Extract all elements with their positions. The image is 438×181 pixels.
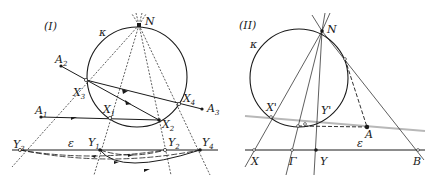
figure-i: (I) κ ε <box>12 13 220 175</box>
label-x1: X1 <box>102 103 115 118</box>
point-x4 <box>177 102 180 105</box>
label-b: B <box>412 155 421 168</box>
point-y <box>314 148 318 152</box>
point-n-ii <box>320 29 324 33</box>
geometry-diagram: (I) κ ε <box>0 0 438 181</box>
point-x-prime <box>270 116 273 119</box>
segments <box>41 66 202 120</box>
line-label-ii: ε <box>357 137 363 150</box>
point-x <box>253 149 256 152</box>
label-y-prime: Y' <box>321 104 331 117</box>
circle-kappa-ii <box>250 29 348 127</box>
transfer-curves <box>20 150 200 163</box>
point-gamma-prime <box>297 125 300 128</box>
label-y3: Y3 <box>13 138 25 153</box>
label-gamma: Γ <box>288 155 297 168</box>
label-a3: A3 <box>206 102 220 117</box>
line-label: ε <box>68 137 74 150</box>
label-a1: A1 <box>34 104 47 119</box>
points-ii <box>253 29 420 152</box>
circle-label: κ <box>98 26 107 39</box>
point-a3 <box>200 107 203 110</box>
label-n: N <box>144 15 155 28</box>
figure-ii-title: (II) <box>239 19 256 32</box>
point-tangent <box>344 58 347 61</box>
point-y2 <box>163 148 166 151</box>
label-y4: Y4 <box>202 136 214 151</box>
circle-kappa <box>87 27 187 127</box>
point-x3 <box>84 78 87 81</box>
label-y2: Y2 <box>168 136 180 151</box>
dashed-to-a <box>298 59 367 127</box>
figure-i-title: (I) <box>44 20 57 33</box>
point-gamma <box>291 149 294 152</box>
label-y1: Y1 <box>88 136 100 151</box>
label-x2: X2 <box>161 118 175 133</box>
figure-ii: (II) κ ε <box>239 13 425 175</box>
label-a2: A2 <box>54 53 68 68</box>
label-a: A <box>364 128 373 141</box>
circle-label-ii: κ <box>249 38 258 51</box>
label-x4: X4 <box>182 92 195 107</box>
label-x3: X3 <box>72 86 86 101</box>
point-b <box>417 149 420 152</box>
label-x-prime: X' <box>265 101 277 114</box>
point-y-prime <box>304 123 307 126</box>
point-x2 <box>157 118 161 122</box>
points <box>18 23 203 152</box>
label-x: X <box>250 155 260 168</box>
label-y: Y <box>320 155 329 168</box>
label-n-ii: N <box>326 23 337 36</box>
point-n <box>137 23 141 27</box>
